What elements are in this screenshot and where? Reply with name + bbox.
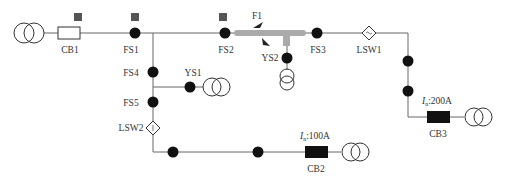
fs1-switch[interactable] [130,28,141,39]
fs2-label: FS2 [218,45,234,55]
cb3-transformer-icon [465,108,492,126]
fault-indicator-fs1 [131,13,139,21]
fault-indicator-cb1 [74,13,82,21]
ys1-label: YS1 [185,68,202,78]
fs4-label: FS4 [123,68,139,78]
ys2-label: YS2 [262,53,279,63]
fault-label: F1 [252,11,262,21]
fs5-switch[interactable] [148,97,159,108]
cb2-transformer-icon [342,143,369,161]
node-right-1[interactable] [403,56,414,67]
fs3-label: FS3 [310,45,326,55]
fault-section [234,30,306,46]
ys2-switch[interactable] [282,53,293,64]
fs1-label: FS1 [123,45,139,55]
fs4-switch[interactable] [148,67,159,78]
cb2-breaker[interactable] [305,146,328,158]
ys1-transformer-icon [203,78,230,96]
ys2-transformer-icon [280,69,294,90]
fs2-switch[interactable] [220,28,231,39]
cb1-breaker[interactable] [58,27,80,39]
fs3-switch[interactable] [312,28,323,39]
node-bottom-1[interactable] [168,147,179,158]
lsw2-tie-switch[interactable] [146,121,160,135]
fault-indicator-fs2 [219,13,227,21]
cb2-rating: In:100A [299,131,330,142]
ys1-switch[interactable] [185,82,196,93]
node-bottom-2[interactable] [253,147,264,158]
node-right-2[interactable] [403,86,414,97]
lsw1-tie-switch[interactable] [362,26,376,40]
cb3-label: CB3 [429,129,447,139]
main-feeder [44,33,464,117]
single-line-diagram: CB1 FS1 FS2 F1 FS3 YS2 LSW1 CB3 In:200A [0,0,506,183]
cb2-label: CB2 [307,164,325,174]
cb1-label: CB1 [61,45,79,55]
lsw1-label: LSW1 [357,45,382,55]
cb3-rating: In:200A [421,96,452,107]
main-transformer-icon [14,23,44,43]
lsw2-label: LSW2 [119,123,144,133]
fs5-label: FS5 [123,98,139,108]
cb3-breaker[interactable] [427,111,450,123]
